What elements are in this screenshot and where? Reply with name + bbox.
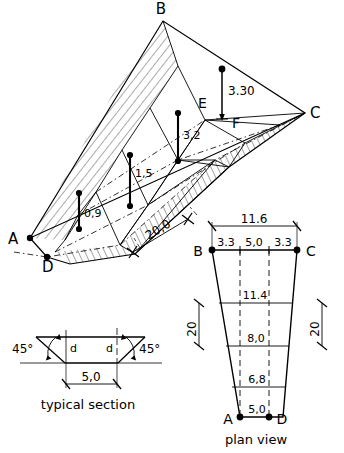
plan-width-label-1: 11.4 (243, 289, 268, 302)
plan-width-label-2: 8,0 (247, 332, 265, 345)
depth-label-0-9: 0,9 (84, 207, 102, 220)
plan-width-label-3: 6,8 (248, 373, 266, 386)
plan-bottom-width-label: 5,0 (248, 403, 266, 416)
depth-bar-3-2: 3,2 (175, 110, 201, 164)
typical-section-d-left: d (70, 342, 77, 355)
plan-top-sub-dimensions: 3.3 5,0 3.3 (217, 236, 292, 254)
pictorial-label-C: C (310, 104, 320, 122)
plan-left-spacing-label: 20 (185, 321, 199, 336)
plan-label-B: B (193, 243, 203, 259)
plan-label-C: C (306, 243, 316, 259)
depth-label-3-2: 3,2 (183, 129, 201, 142)
depth-label-1-5: 1,5 (135, 167, 153, 180)
pictorial-label-F: F (232, 115, 240, 131)
plan-top-overall-label: 11.6 (241, 212, 268, 226)
depth-label-3-30: 3.30 (228, 84, 255, 98)
plan-top-right-offset-label: 3.3 (274, 236, 292, 249)
angle-label-left: 45° (12, 342, 33, 356)
drawing-canvas: 0,9 1,5 3,2 3.30 B C A (0, 0, 344, 453)
typical-section-caption: typical section (41, 397, 135, 412)
plan-top-left-offset-label: 3.3 (217, 236, 235, 249)
plan-right-spacing-dimension: 20 (308, 299, 327, 350)
pictorial-label-B: B (156, 0, 166, 18)
pictorial-label-E: E (198, 95, 207, 111)
plan-right-spacing-label: 20 (308, 321, 322, 336)
typical-section-angle-right: 45° (121, 334, 160, 361)
typical-section-base-label: 5,0 (81, 370, 100, 384)
typical-section-d-right: d (106, 342, 113, 355)
pictorial-label-A: A (8, 230, 19, 248)
plan-label-A: A (223, 411, 233, 427)
plan-view: 11.6 3.3 5,0 3.3 11.4 8,0 6,8 5,0 20 (185, 212, 327, 447)
pictorial-label-D: D (42, 258, 54, 276)
typical-section-base-dimension: 5,0 (62, 363, 121, 389)
angle-label-right: 45° (139, 342, 160, 356)
plan-label-D: D (277, 411, 288, 427)
depth-bar-1-5: 1,5 (127, 152, 153, 209)
plan-top-middle-label: 5,0 (245, 236, 263, 249)
depth-bar-3-30: 3.30 (216, 66, 255, 121)
pictorial-view: 0,9 1,5 3,2 3.30 B C A (8, 0, 320, 276)
plan-view-caption: plan view (225, 432, 288, 447)
plan-left-spacing-dimension: 20 (185, 299, 204, 350)
drawing-sheet: 0,9 1,5 3,2 3.30 B C A (0, 0, 344, 453)
typical-section-view: d d 45° 45° 5,0 typical section (12, 328, 162, 412)
